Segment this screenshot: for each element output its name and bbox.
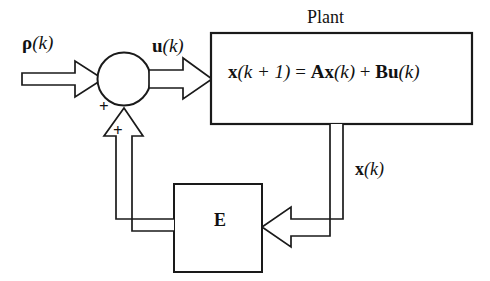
equation-input-u: u xyxy=(388,61,399,82)
equation-input-arg: (k) xyxy=(398,61,419,82)
e-block-label: E xyxy=(214,211,226,229)
plant-title-label: Plant xyxy=(307,8,344,26)
sum-sign-feedback: + xyxy=(113,122,123,139)
state-feedback-symbol: x xyxy=(355,159,364,179)
block-diagram-figure: ρ(k) u(k) Plant x(k + 1) = Ax(k) + Bu(k)… xyxy=(0,0,490,281)
equation-matrix-a: A xyxy=(311,61,325,82)
equation-lhs-state: x xyxy=(228,61,238,82)
equation-state-arg: (k) xyxy=(334,61,355,82)
state-feedback-label: x(k) xyxy=(355,160,384,178)
plant-equation: x(k + 1) = Ax(k) + Bu(k) xyxy=(228,62,420,81)
state-feedback-arrow xyxy=(262,124,343,247)
equation-lhs-arg: (k + 1) xyxy=(238,61,291,82)
control-input-label: u(k) xyxy=(152,36,184,55)
reference-input-symbol: ρ xyxy=(22,32,32,53)
reference-input-arrow xyxy=(22,61,103,97)
control-signal-arrow xyxy=(149,58,212,99)
state-feedback-arg: (k) xyxy=(364,159,384,179)
control-input-symbol: u xyxy=(152,35,163,56)
sum-sign-reference: + xyxy=(99,98,109,115)
equation-state-x: x xyxy=(324,61,334,82)
equation-matrix-b: B xyxy=(375,61,388,82)
equation-plus: + xyxy=(360,61,371,82)
reference-input-arg: (k) xyxy=(32,32,53,53)
control-input-arg: (k) xyxy=(163,35,184,56)
reference-input-label: ρ(k) xyxy=(22,33,53,52)
diagram-canvas xyxy=(0,0,490,281)
equation-equals: = xyxy=(295,61,306,82)
